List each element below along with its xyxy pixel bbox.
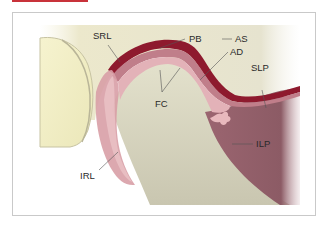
- label-fc: FC: [155, 98, 168, 109]
- label-irl: IRL: [80, 170, 95, 181]
- label-pb: PB: [189, 33, 202, 44]
- label-srl: SRL: [93, 30, 111, 41]
- label-ilp: ILP: [256, 138, 270, 149]
- label-as: AS: [235, 33, 248, 44]
- label-ad: AD: [230, 46, 243, 57]
- tmj-anatomy-diagram: SRL PB AS AD SLP FC ILP IRL: [0, 0, 330, 225]
- label-slp: SLP: [251, 62, 269, 73]
